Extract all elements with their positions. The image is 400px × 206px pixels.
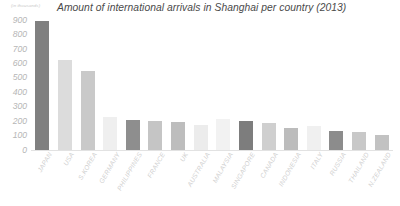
bar-malaysia[interactable]: [216, 119, 230, 150]
x-axis-label-n-zealand: N.ZEALAND: [367, 151, 392, 188]
bar-slot: [329, 20, 343, 150]
bar-slot: [81, 20, 95, 150]
bar-usa[interactable]: [58, 60, 72, 150]
x-axis-label-canada: CANADA: [259, 151, 279, 179]
bar-slot: [307, 20, 321, 150]
bar-slot: [171, 20, 185, 150]
bar-slot: [148, 20, 162, 150]
bar-france[interactable]: [148, 121, 162, 150]
x-axis-label-france: FRANCE: [146, 151, 166, 179]
bar-slot: [262, 20, 276, 150]
y-axis-tick-700: 700: [13, 45, 27, 54]
bar-slot: [103, 20, 117, 150]
bar-s-korea[interactable]: [81, 71, 95, 150]
bar-slot: [239, 20, 253, 150]
x-axis-label-thailand: THAILAND: [346, 151, 369, 184]
y-axis-tick-100: 100: [13, 131, 27, 140]
x-axis-label-uk: UK: [178, 151, 189, 163]
x-axis-label-germany: GERMANY: [97, 151, 120, 185]
bar-slot: [35, 20, 49, 150]
bar-singapore[interactable]: [239, 121, 253, 150]
x-axis-label-russia: RUSSIA: [328, 151, 347, 177]
y-axis-tick-900: 900: [13, 16, 27, 25]
y-axis-tick-0: 0: [22, 146, 27, 155]
bar-japan[interactable]: [35, 21, 49, 150]
y-axis-tick-800: 800: [13, 30, 27, 39]
bar-slot: [126, 20, 140, 150]
x-axis-label-usa: USA: [62, 151, 75, 167]
x-axis-label-indonesia: INDONESIA: [277, 151, 302, 187]
bar-italy[interactable]: [307, 126, 321, 150]
bar-slot: [284, 20, 298, 150]
bar-chart: (in thousands) Amount of international a…: [0, 0, 400, 206]
bar-indonesia[interactable]: [284, 128, 298, 150]
bar-germany[interactable]: [103, 117, 117, 150]
y-axis: 9008007006005004003002001000: [0, 14, 29, 156]
bar-series: [31, 20, 393, 150]
bar-philippines[interactable]: [126, 120, 140, 150]
x-axis-label-philippines: PHILIPPINES: [116, 151, 144, 192]
x-axis-labels: JAPANUSAS.KOREAGERMANYPHILIPPINESFRANCEU…: [31, 151, 393, 206]
bar-slot: [216, 20, 230, 150]
y-axis-tick-500: 500: [13, 73, 27, 82]
bar-slot: [375, 20, 389, 150]
x-axis-label-italy: ITALY: [309, 151, 324, 170]
bar-thailand[interactable]: [352, 132, 366, 150]
y-axis-unit-caption: (in thousands): [11, 3, 40, 8]
y-axis-tick-600: 600: [13, 59, 27, 68]
bar-russia[interactable]: [329, 131, 343, 150]
y-axis-tick-300: 300: [13, 102, 27, 111]
bar-slot: [58, 20, 72, 150]
bar-australia[interactable]: [194, 125, 208, 150]
x-axis-label-malaysia: MALAYSIA: [211, 151, 234, 184]
bar-uk[interactable]: [171, 122, 185, 150]
y-axis-tick-400: 400: [13, 88, 27, 97]
x-axis-label-australia: AUSTRALIA: [186, 151, 211, 188]
y-axis-tick-200: 200: [13, 117, 27, 126]
x-axis-label-singapore: SINGAPORE: [230, 151, 257, 190]
bar-slot: [194, 20, 208, 150]
bar-slot: [352, 20, 366, 150]
chart-title: Amount of international arrivals in Shan…: [57, 2, 400, 13]
x-axis-label-s-korea: S.KOREA: [77, 151, 98, 181]
x-axis-label-japan: JAPAN: [36, 151, 53, 173]
bar-canada[interactable]: [262, 123, 276, 150]
bar-n-zealand[interactable]: [375, 135, 389, 150]
